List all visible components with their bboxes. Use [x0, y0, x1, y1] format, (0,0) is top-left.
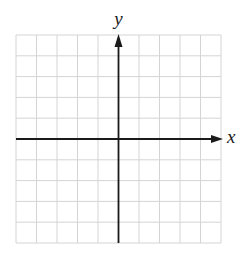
coordinate-plane: x y [0, 0, 245, 257]
y-axis-arrow-icon [115, 34, 123, 47]
y-axis-label: y [112, 8, 123, 29]
x-axis-label: x [226, 126, 236, 147]
axes [16, 34, 223, 243]
